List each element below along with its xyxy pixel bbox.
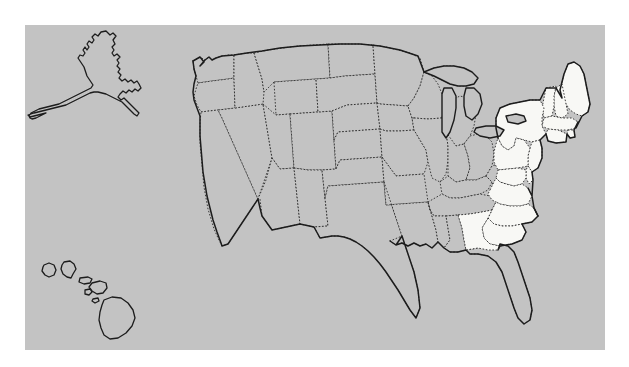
region-hawaii-molokai[interactable]: [79, 277, 92, 284]
region-hawaii-lanai[interactable]: [85, 289, 92, 295]
region-colorado[interactable]: [290, 111, 336, 170]
inset-alaska[interactable]: [28, 31, 141, 119]
region-new-jersey[interactable]: [528, 140, 542, 172]
region-north-dakota[interactable]: [328, 44, 375, 78]
region-hawaii-kahoolawe[interactable]: [92, 298, 99, 303]
region-massachusetts[interactable]: [542, 116, 578, 130]
lake-huron-outline: [464, 88, 482, 120]
region-florida[interactable]: [466, 244, 532, 324]
lake-ontario-outline: [506, 114, 526, 124]
map-vector-layer: [0, 0, 629, 367]
us-choropleth-map-figure: [0, 0, 629, 367]
region-hawaii-big-island[interactable]: [99, 297, 135, 339]
region-hawaii-oahu[interactable]: [61, 261, 76, 278]
region-wyoming[interactable]: [274, 79, 318, 115]
region-hawaii-kauai[interactable]: [42, 263, 56, 277]
region-oregon[interactable]: [194, 78, 235, 112]
region-alaska[interactable]: [28, 31, 141, 119]
inset-hawaii[interactable]: [42, 261, 135, 339]
